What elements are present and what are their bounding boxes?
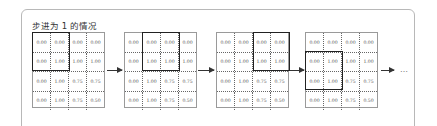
grid-cell: 0.50 xyxy=(86,92,104,111)
grid-cell: 0.75 xyxy=(160,92,178,111)
grid-cell: 1.00 xyxy=(359,53,377,72)
grid-cell: 1.00 xyxy=(160,53,178,72)
grid-cell: 0.75 xyxy=(68,92,86,111)
grid-cell: 1.00 xyxy=(68,53,86,72)
feature-map-grid: 0.000.000.000.000.001.001.001.000.001.00… xyxy=(32,32,105,108)
grid-cell: 0.00 xyxy=(306,53,323,72)
grid-cell: 1.00 xyxy=(323,72,341,91)
grid-cell: 0.00 xyxy=(33,33,50,52)
grid-row: 0.000.000.000.00 xyxy=(33,33,104,52)
grid-cell: 0.00 xyxy=(160,33,178,52)
grid-row: 0.001.000.750.50 xyxy=(217,91,288,111)
arrow-icon xyxy=(290,70,304,71)
grid-cell: 0.00 xyxy=(252,33,270,52)
grid-cell: 0.00 xyxy=(142,33,160,52)
grid-row: 0.001.000.750.75 xyxy=(33,71,104,91)
grid-cell: 0.00 xyxy=(178,33,196,52)
grid-row: 0.001.001.001.00 xyxy=(306,52,377,72)
grid-cell: 0.00 xyxy=(234,33,252,52)
grid-cell: 0.00 xyxy=(217,92,234,111)
grid-cell: 1.00 xyxy=(323,53,341,72)
grid-cell: 0.50 xyxy=(270,92,288,111)
diagram-title: 步进为 1 的情况 xyxy=(32,19,97,31)
grid-cell: 0.00 xyxy=(125,53,142,72)
grid-cell: 0.00 xyxy=(125,72,142,91)
grid-row: 0.001.001.001.00 xyxy=(33,52,104,72)
grid-cell: 1.00 xyxy=(234,92,252,111)
grid-cell: 1.00 xyxy=(50,92,68,111)
grid-cell: 0.00 xyxy=(217,72,234,91)
grid-cell: 0.75 xyxy=(252,92,270,111)
grid-row: 0.001.000.750.50 xyxy=(125,91,196,111)
grid-cell: 0.75 xyxy=(252,72,270,91)
grid-cell: 1.00 xyxy=(323,92,341,111)
grid-cell: 0.00 xyxy=(341,33,359,52)
grid-row: 0.001.001.001.00 xyxy=(125,52,196,72)
grid-cell: 0.50 xyxy=(359,92,377,111)
ellipsis: … xyxy=(400,65,408,74)
grid-cell: 0.75 xyxy=(178,72,196,91)
grid-cell: 0.00 xyxy=(323,33,341,52)
grid-row: 0.000.000.000.00 xyxy=(125,33,196,52)
grid-cell: 0.75 xyxy=(160,72,178,91)
grid-cell: 1.00 xyxy=(142,72,160,91)
grid-cell: 0.00 xyxy=(270,33,288,52)
grid-cell: 1.00 xyxy=(86,53,104,72)
grid-cell: 1.00 xyxy=(142,53,160,72)
grid-cell: 0.00 xyxy=(359,33,377,52)
grid-row: 0.001.000.750.50 xyxy=(306,91,377,111)
grid-cell: 0.50 xyxy=(178,92,196,111)
grid-cell: 0.00 xyxy=(68,33,86,52)
grid-cell: 1.00 xyxy=(234,72,252,91)
grid-cell: 0.00 xyxy=(217,53,234,72)
feature-map-grid: 0.000.000.000.000.001.001.001.000.001.00… xyxy=(305,32,378,108)
grid-row: 0.001.001.001.00 xyxy=(217,52,288,72)
grid-cell: 0.75 xyxy=(68,72,86,91)
grid-cell: 1.00 xyxy=(270,53,288,72)
grid-cell: 1.00 xyxy=(50,72,68,91)
grid-cell: 0.00 xyxy=(306,33,323,52)
grid-cell: 0.00 xyxy=(33,92,50,111)
grid-row: 0.001.000.750.75 xyxy=(125,71,196,91)
grid-cell: 1.00 xyxy=(142,92,160,111)
arrow-icon xyxy=(107,70,122,71)
grid-cell: 0.00 xyxy=(306,92,323,111)
grid-cell: 0.75 xyxy=(86,72,104,91)
grid-cell: 0.00 xyxy=(217,33,234,52)
grid-cell: 0.00 xyxy=(33,72,50,91)
grid-cell: 0.00 xyxy=(306,72,323,91)
grid-row: 0.000.000.000.00 xyxy=(306,33,377,52)
grid-cell: 0.75 xyxy=(270,72,288,91)
grid-row: 0.001.000.750.75 xyxy=(217,71,288,91)
grid-cell: 0.75 xyxy=(359,72,377,91)
feature-map-grid: 0.000.000.000.000.001.001.001.000.001.00… xyxy=(216,32,289,108)
grid-cell: 1.00 xyxy=(252,53,270,72)
grid-cell: 1.00 xyxy=(50,53,68,72)
grid-cell: 1.00 xyxy=(178,53,196,72)
grid-cell: 1.00 xyxy=(341,53,359,72)
grid-cell: 0.00 xyxy=(50,33,68,52)
grid-cell: 0.00 xyxy=(86,33,104,52)
arrow-icon xyxy=(198,70,214,71)
grid-cell: 0.00 xyxy=(125,33,142,52)
grid-cell: 0.00 xyxy=(125,92,142,111)
grid-cell: 1.00 xyxy=(234,53,252,72)
grid-row: 0.001.000.750.75 xyxy=(306,71,377,91)
grid-cell: 0.75 xyxy=(341,92,359,111)
arrow-icon xyxy=(381,70,394,71)
feature-map-grid: 0.000.000.000.000.001.001.001.000.001.00… xyxy=(124,32,197,108)
grid-cell: 0.00 xyxy=(33,53,50,72)
grid-row: 0.000.000.000.00 xyxy=(217,33,288,52)
grid-row: 0.001.000.750.50 xyxy=(33,91,104,111)
grid-cell: 0.75 xyxy=(341,72,359,91)
